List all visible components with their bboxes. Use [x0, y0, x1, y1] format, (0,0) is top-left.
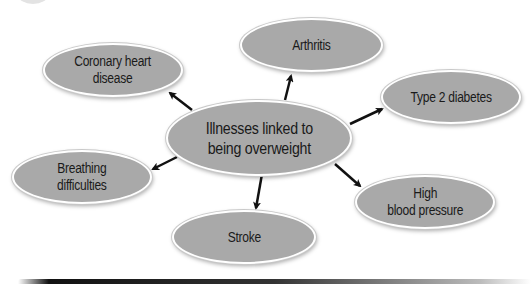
node-arthritis: Arthritis [240, 18, 383, 72]
node-high-blood-pressure: High blood pressure [355, 175, 495, 229]
center-label: Illnesses linked to being overweight [205, 118, 312, 158]
arrow-to-stroke [256, 174, 262, 208]
spider-diagram: Coronary heart disease Arthritis Type 2 … [0, 0, 531, 284]
node-label: Stroke [227, 229, 260, 246]
arrow-to-breathing [153, 157, 177, 169]
node-label: Arthritis [292, 37, 330, 54]
bottom-divider [18, 279, 531, 284]
arrow-to-diabetes [350, 109, 382, 124]
node-type-2-diabetes: Type 2 diabetes [381, 70, 521, 124]
node-stroke: Stroke [172, 210, 316, 264]
node-label: Coronary heart disease [75, 53, 152, 87]
arrow-to-coronary [170, 93, 192, 110]
node-center-illnesses: Illnesses linked to being overweight [166, 100, 352, 176]
node-label: High blood pressure [387, 185, 463, 219]
arrow-to-blood-pressure [335, 164, 360, 186]
node-label: Breathing difficulties [57, 160, 107, 194]
node-breathing-difficulties: Breathing difficulties [12, 150, 152, 204]
node-label: Type 2 diabetes [410, 89, 491, 106]
arrow-to-arthritis [285, 76, 291, 100]
node-coronary-heart-disease: Coronary heart disease [43, 43, 183, 97]
